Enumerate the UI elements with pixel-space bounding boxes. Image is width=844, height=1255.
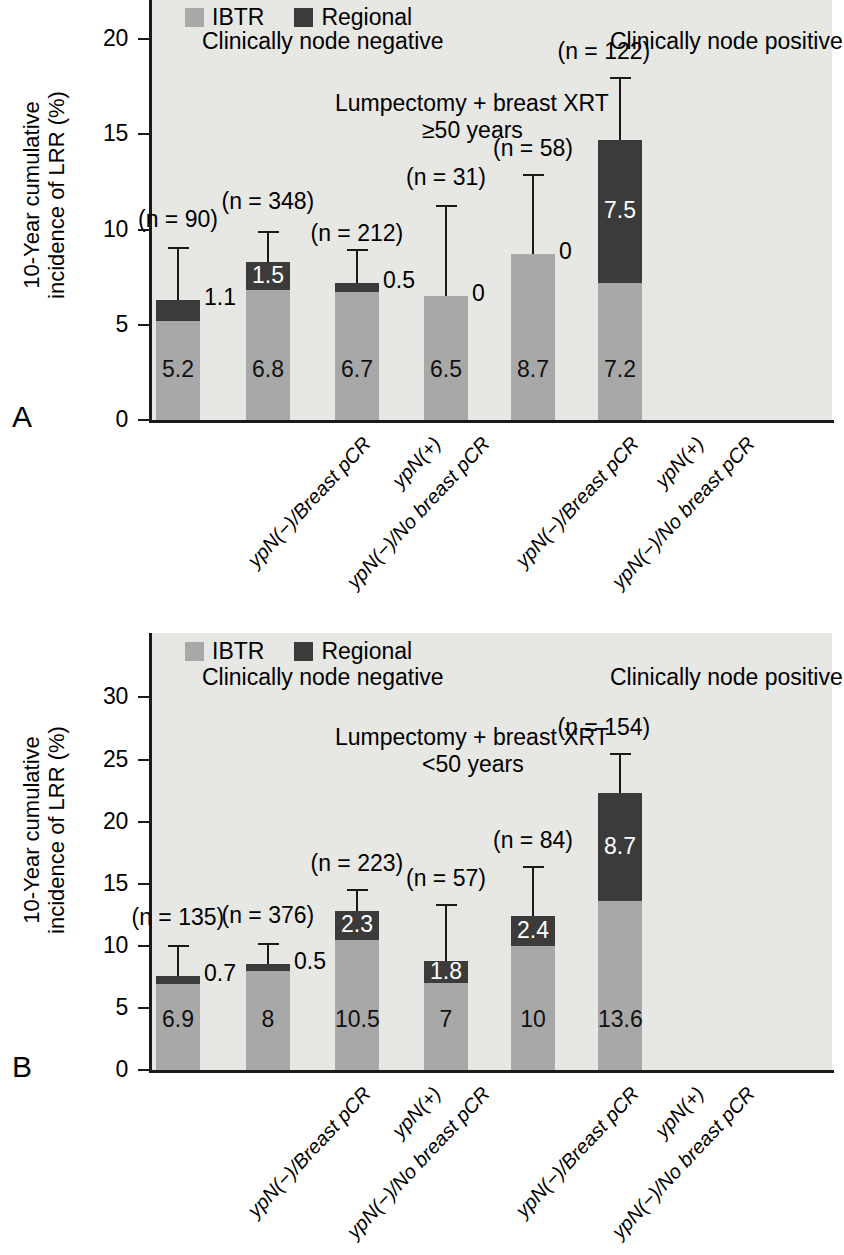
bar-value-label-ibtr: 6.5 — [424, 358, 468, 381]
subtitle-line2: <50 years — [422, 751, 524, 778]
bar-segment-regional — [156, 976, 200, 985]
sample-size-label: (n = 348) — [222, 190, 315, 213]
y-axis-tick-label: 20 — [76, 27, 128, 50]
bar-value-label-regional: 1.1 — [204, 286, 236, 309]
y-axis-label-a: 10-Year cumulative incidence of LRR (%) — [19, 75, 69, 315]
bar-value-label-ibtr: 8.7 — [511, 358, 555, 381]
error-bar — [511, 174, 555, 254]
error-bar-stem — [177, 247, 179, 300]
error-bar-cap — [523, 174, 544, 176]
y-axis-label-line1: 10-Year cumulative — [19, 736, 44, 924]
error-bar-stem — [356, 889, 358, 911]
y-axis-tick — [138, 419, 149, 421]
error-bar — [598, 77, 642, 140]
bar-value-label-ibtr: 7.2 — [598, 358, 642, 381]
sample-size-label: (n = 57) — [406, 867, 486, 890]
y-axis-tick — [138, 945, 149, 947]
x-axis-line — [150, 1070, 834, 1073]
error-bar-stem — [619, 753, 621, 793]
error-bar — [246, 231, 290, 261]
bar-value-label-regional: 0.5 — [294, 950, 326, 973]
legend-item-regional: Regional — [294, 6, 412, 29]
y-axis-tick-label: 30 — [76, 685, 128, 708]
panel-letter-a: A — [12, 402, 32, 432]
bar-value-label-ibtr: 10.5 — [335, 1008, 379, 1031]
group-label-node-positive: Clinically node positive — [610, 664, 843, 691]
x-axis-tick-label: ypN(−)/Breast pCR — [512, 433, 642, 571]
sample-size-label: (n = 90) — [138, 208, 218, 231]
sample-size-label: (n = 135) — [132, 906, 225, 929]
bar-value-label-regional: 1.8 — [424, 960, 468, 983]
bar-segment-regional — [246, 964, 290, 970]
error-bar — [424, 205, 468, 296]
group-label-node-negative: Clinically node negative — [202, 28, 444, 55]
bar-value-label-ibtr: 10 — [511, 1008, 555, 1031]
bar-value-label-ibtr: 6.8 — [246, 358, 290, 381]
y-axis-label-line2: incidence of LRR (%) — [44, 91, 69, 299]
bar-segment-ibtr — [598, 283, 642, 420]
y-axis-tick-label: 15 — [76, 122, 128, 145]
error-bar-cap — [258, 943, 279, 945]
bar-value-label-regional: 0.5 — [383, 269, 415, 292]
sample-size-label: (n = 84) — [493, 829, 573, 852]
error-bar-stem — [532, 866, 534, 916]
legend-label: Regional — [321, 6, 412, 29]
legend-swatch-regional — [294, 642, 313, 661]
y-axis-tick — [138, 1069, 149, 1071]
bar-column — [335, 283, 379, 420]
error-bar-cap — [610, 753, 631, 755]
bar-segment-regional — [156, 300, 200, 321]
x-axis-tick-label: ypN(−)/Breast pCR — [244, 433, 374, 571]
sample-size-label: (n = 212) — [311, 222, 404, 245]
legend: IBTRRegional — [185, 6, 412, 29]
y-axis-tick-label: 5 — [76, 996, 128, 1019]
y-axis-label-line1: 10-Year cumulative — [19, 101, 44, 289]
error-bar — [598, 753, 642, 793]
legend-item-regional: Regional — [294, 640, 412, 663]
error-bar — [156, 945, 200, 976]
legend-swatch-ibtr — [185, 8, 204, 27]
bar-value-label-regional: 2.3 — [335, 913, 379, 936]
sample-size-label: (n = 122) — [558, 40, 651, 63]
bar-value-label-ibtr: 6.7 — [335, 358, 379, 381]
y-axis-tick — [138, 883, 149, 885]
sample-size-label: (n = 31) — [406, 166, 486, 189]
y-axis-tick-label: 10 — [76, 934, 128, 957]
error-bar — [424, 904, 468, 961]
bar-value-label-regional: 0 — [472, 282, 485, 305]
error-bar-cap — [436, 205, 457, 207]
bar-value-label-ibtr: 7 — [424, 1008, 468, 1031]
error-bar-cap — [436, 904, 457, 906]
bar-segment-regional — [335, 283, 379, 293]
sample-size-label: (n = 154) — [558, 716, 651, 739]
bar-value-label-regional: 8.7 — [598, 835, 642, 858]
error-bar-cap — [610, 77, 631, 79]
y-axis-tick-label: 15 — [76, 872, 128, 895]
error-bar-cap — [347, 889, 368, 891]
y-axis-tick-label: 5 — [76, 313, 128, 336]
legend-item-ibtr: IBTR — [185, 6, 264, 29]
panel-a: A 10-Year cumulative incidence of LRR (%… — [0, 0, 844, 620]
group-label-node-negative: Clinically node negative — [202, 664, 444, 691]
y-axis-tick — [138, 38, 149, 40]
x-axis-tick-label: ypN(−)/Breast pCR — [512, 1083, 642, 1221]
bar-value-label-ibtr: 6.9 — [156, 1008, 200, 1031]
error-bar — [335, 249, 379, 283]
legend-label: Regional — [321, 640, 412, 663]
y-axis-tick — [138, 324, 149, 326]
y-axis-tick — [138, 759, 149, 761]
y-axis-line — [149, 633, 152, 1073]
legend-swatch-ibtr — [185, 642, 204, 661]
x-axis-line — [150, 420, 834, 423]
legend-label: IBTR — [212, 6, 264, 29]
error-bar-stem — [619, 77, 621, 140]
legend: IBTRRegional — [185, 640, 412, 663]
y-axis-tick-label: 20 — [76, 810, 128, 833]
subtitle-line1: Lumpectomy + breast XRT — [335, 90, 609, 117]
error-bar-stem — [532, 174, 534, 254]
error-bar-cap — [258, 231, 279, 233]
y-axis-label-b: 10-Year cumulative incidence of LRR (%) — [19, 710, 69, 950]
bar-segment-ibtr — [511, 254, 555, 420]
bar-value-label-regional: 2.4 — [511, 919, 555, 942]
y-axis-tick-label: 0 — [76, 408, 128, 431]
